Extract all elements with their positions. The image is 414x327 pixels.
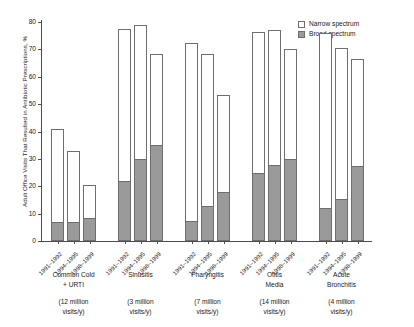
- x-axis-tick-mark: [358, 241, 359, 244]
- x-axis-tick-mark: [141, 241, 142, 244]
- bar-stacked: [185, 43, 198, 241]
- bar-segment-broad-spectrum: [285, 159, 296, 240]
- y-axis-tick-mark: [38, 159, 41, 160]
- y-axis-tick-label: 80: [29, 19, 36, 26]
- legend-label-broad: Broad spectrum: [309, 31, 356, 38]
- narrow-spectrum-swatch: [298, 21, 305, 28]
- bar-segment-broad-spectrum: [151, 145, 162, 240]
- x-axis-tick-mark: [157, 241, 158, 244]
- y-axis-tick-label: 50: [29, 101, 36, 108]
- bar-segment-broad-spectrum: [253, 173, 264, 240]
- bar-segment-broad-spectrum: [320, 208, 331, 240]
- y-axis-tick-label: 20: [29, 183, 36, 190]
- x-axis-tick-mark: [224, 241, 225, 244]
- bar-stacked: [284, 49, 297, 241]
- bar-segment-broad-spectrum: [52, 222, 63, 240]
- bar-segment-broad-spectrum: [352, 166, 363, 240]
- bar-stacked: [351, 59, 364, 241]
- bar-stacked: [268, 30, 281, 241]
- x-axis-tick-mark: [58, 241, 59, 244]
- y-axis-tick-mark: [38, 241, 41, 242]
- bar-stacked: [134, 25, 147, 241]
- y-axis-tick-label: 70: [29, 46, 36, 53]
- y-axis-tick-label: 30: [29, 156, 36, 163]
- y-axis-tick-mark: [38, 49, 41, 50]
- y-axis-tick-mark: [38, 104, 41, 105]
- bar-segment-broad-spectrum: [186, 221, 197, 240]
- bar-segment-broad-spectrum: [119, 181, 130, 240]
- bar-stacked: [67, 151, 80, 241]
- bar-segment-broad-spectrum: [336, 199, 347, 240]
- broad-spectrum-swatch: [298, 31, 305, 38]
- bar-stacked: [51, 129, 64, 241]
- antibiotic-prescription-chart: Adult Office Visits That Resulted in Ant…: [0, 0, 414, 327]
- bar-segment-broad-spectrum: [202, 206, 213, 240]
- y-axis-tick-mark: [38, 22, 41, 23]
- y-axis-tick-mark: [38, 77, 41, 78]
- group-visits-label: (4 million visits/y): [302, 297, 382, 316]
- x-axis-tick-mark: [125, 241, 126, 244]
- bar-segment-broad-spectrum: [84, 218, 95, 240]
- x-axis-tick-mark: [326, 241, 327, 244]
- bar-stacked: [201, 54, 214, 241]
- legend-label-narrow: Narrow spectrum: [309, 21, 359, 28]
- x-axis-tick-mark: [74, 241, 75, 244]
- x-axis-tick-mark: [275, 241, 276, 244]
- bar-stacked: [83, 185, 96, 241]
- x-axis-tick-mark: [208, 241, 209, 244]
- y-axis-tick-label: 60: [29, 73, 36, 80]
- bar-stacked: [150, 54, 163, 241]
- bar-stacked: [252, 32, 265, 241]
- x-axis-tick-mark: [192, 241, 193, 244]
- group-name-label: Acute Bronchitis: [302, 270, 382, 289]
- bar-segment-broad-spectrum: [135, 159, 146, 240]
- y-axis-tick-mark: [38, 186, 41, 187]
- bar-segment-broad-spectrum: [68, 222, 79, 240]
- bar-stacked: [319, 33, 332, 241]
- x-axis-tick-mark: [259, 241, 260, 244]
- y-axis-title: Adult Office Visits That Resulted in Ant…: [21, 2, 28, 242]
- y-axis-tick-label: 40: [29, 128, 36, 135]
- y-axis-tick-label: 0: [32, 238, 36, 245]
- x-axis-tick-mark: [291, 241, 292, 244]
- bar-stacked: [118, 29, 131, 241]
- bar-segment-broad-spectrum: [269, 165, 280, 240]
- y-axis-tick-label: 10: [29, 210, 36, 217]
- x-axis-tick-mark: [90, 241, 91, 244]
- bar-segment-broad-spectrum: [218, 192, 229, 240]
- bar-stacked: [335, 48, 348, 241]
- bar-stacked: [217, 95, 230, 241]
- x-axis-line: [41, 241, 372, 242]
- y-axis-tick-mark: [38, 214, 41, 215]
- legend-item-narrow: Narrow spectrum: [298, 21, 359, 28]
- y-axis-tick-mark: [38, 132, 41, 133]
- x-axis-tick-mark: [342, 241, 343, 244]
